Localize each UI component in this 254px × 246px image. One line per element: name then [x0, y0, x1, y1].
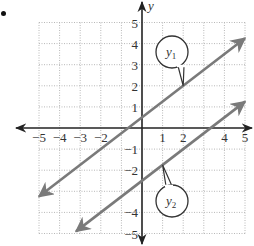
callout-y1: y1 — [156, 36, 188, 86]
callout-tail — [163, 165, 172, 186]
y-tick-label: 3 — [132, 58, 139, 73]
y-tick-label: 1 — [132, 100, 139, 115]
series-label-subscript: 1 — [172, 51, 177, 61]
figure: y −5−4−3−2124554321−1−2−4−5 y1y2 — [0, 0, 254, 246]
y-tick-label: −2 — [124, 163, 138, 178]
x-tick-label: 4 — [221, 130, 228, 145]
y-tick-label: 5 — [132, 16, 139, 31]
y-tick-label: −4 — [124, 205, 138, 220]
y-axis-label: y — [146, 0, 154, 13]
x-tick-label: −5 — [32, 130, 46, 145]
x-tick-label: 1 — [159, 130, 166, 145]
y-tick-label: 2 — [132, 79, 139, 94]
x-tick-label: −3 — [73, 130, 87, 145]
callouts: y1y2 — [156, 36, 188, 217]
y-tick-label: −1 — [124, 142, 138, 157]
y-tick-label: 4 — [132, 37, 139, 52]
x-tick-label: −4 — [53, 130, 67, 145]
y-tick-label: −5 — [124, 227, 138, 242]
x-tick-label: 2 — [180, 130, 187, 145]
x-tick-label: −2 — [94, 130, 108, 145]
callout-tail — [178, 66, 184, 86]
x-tick-label: 5 — [242, 130, 249, 145]
series-label-subscript: 2 — [172, 200, 177, 210]
coordinate-plane: y −5−4−3−2124554321−1−2−4−5 y1y2 — [0, 0, 254, 246]
bullet-icon — [1, 11, 6, 16]
